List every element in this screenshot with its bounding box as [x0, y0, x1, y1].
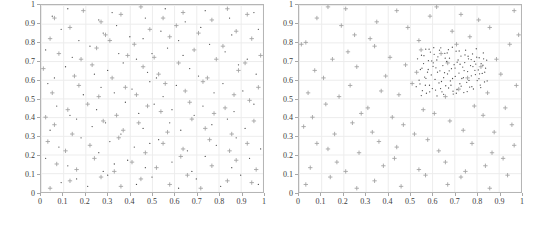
- y-tick-label: 1: [289, 0, 293, 9]
- y-tick-mark: [295, 42, 298, 43]
- x-tick-mark: [388, 193, 389, 196]
- y-tick-mark: [295, 23, 298, 24]
- x-tick-mark: [298, 193, 299, 196]
- y-tick-label: 0: [289, 189, 293, 198]
- x-tick-mark: [477, 193, 478, 196]
- y-tick-label: 0.5: [283, 94, 293, 103]
- y-tick-label: 0.6: [283, 75, 293, 84]
- markers-layer: [41, 5, 263, 192]
- x-tick-label: 0.2: [338, 197, 348, 206]
- x-tick-mark: [365, 193, 366, 196]
- y-tick-label: 0.7: [25, 56, 35, 65]
- x-tick-mark: [242, 193, 243, 196]
- y-tick-mark: [295, 174, 298, 175]
- scatter-plot-right: 00.10.20.30.40.50.60.70.80.91 00.10.20.3…: [298, 4, 522, 193]
- x-tick-label: 0.9: [495, 197, 505, 206]
- x-tick-label: 0.1: [57, 197, 67, 206]
- y-tick-label: 0.7: [283, 56, 293, 65]
- y-tick-mark: [295, 193, 298, 194]
- y-tick-label: 0.2: [283, 151, 293, 160]
- y-tick-label: 0.3: [25, 132, 35, 141]
- x-tick-mark: [432, 193, 433, 196]
- x-tick-mark: [522, 193, 523, 196]
- x-tick-label: 0.4: [383, 197, 393, 206]
- x-tick-mark: [107, 193, 108, 196]
- y-tick-label: 1: [31, 0, 35, 9]
- y-tick-label: 0.9: [283, 18, 293, 27]
- x-tick-mark: [320, 193, 321, 196]
- y-axis-labels: 00.10.20.30.40.50.60.70.80.91: [267, 4, 293, 193]
- x-tick-label: 0: [296, 197, 300, 206]
- y-tick-mark: [37, 155, 40, 156]
- x-axis-labels: 00.10.20.30.40.50.60.70.80.91: [298, 197, 522, 207]
- y-tick-mark: [295, 117, 298, 118]
- y-tick-label: 0.9: [25, 18, 35, 27]
- y-tick-label: 0.3: [283, 132, 293, 141]
- x-tick-label: 0.9: [237, 197, 247, 206]
- x-tick-label: 1: [520, 197, 524, 206]
- y-axis-labels: 00.10.20.30.40.50.60.70.80.91: [9, 4, 35, 193]
- y-tick-mark: [295, 136, 298, 137]
- y-tick-mark: [295, 4, 298, 5]
- x-tick-label: 0.6: [169, 197, 179, 206]
- x-tick-mark: [264, 193, 265, 196]
- y-tick-label: 0.1: [25, 170, 35, 179]
- scatter-plot-left: 00.10.20.30.40.50.60.70.80.91 00.10.20.3…: [40, 4, 264, 193]
- y-tick-mark: [37, 117, 40, 118]
- x-tick-label: 1: [262, 197, 266, 206]
- x-axis-ticks: [298, 193, 522, 196]
- y-tick-mark: [37, 193, 40, 194]
- y-tick-label: 0.8: [283, 37, 293, 46]
- x-tick-label: 0.3: [360, 197, 370, 206]
- y-tick-mark: [37, 136, 40, 137]
- x-tick-mark: [219, 193, 220, 196]
- y-tick-label: 0.5: [25, 94, 35, 103]
- x-axis-ticks: [40, 193, 264, 196]
- y-axis-ticks: [37, 4, 40, 193]
- x-tick-mark: [62, 193, 63, 196]
- x-tick-label: 0.2: [80, 197, 90, 206]
- x-tick-label: 0.8: [472, 197, 482, 206]
- plot-box: [40, 4, 264, 193]
- x-tick-label: 0.8: [214, 197, 224, 206]
- uniform-plus-markers: [41, 5, 263, 190]
- x-tick-mark: [500, 193, 501, 196]
- two-panel-scatter-figure: 00.10.20.30.40.50.60.70.80.91 00.10.20.3…: [0, 0, 551, 225]
- markers-layer: [299, 5, 521, 192]
- y-axis-ticks: [295, 4, 298, 193]
- uniform-plus-markers: [299, 5, 521, 190]
- x-tick-mark: [197, 193, 198, 196]
- y-tick-label: 0.8: [25, 37, 35, 46]
- y-tick-mark: [295, 61, 298, 62]
- y-tick-mark: [37, 4, 40, 5]
- plot-box: [298, 4, 522, 193]
- y-tick-mark: [295, 155, 298, 156]
- x-tick-label: 0.5: [405, 197, 415, 206]
- y-tick-label: 0.1: [283, 170, 293, 179]
- y-tick-mark: [295, 99, 298, 100]
- y-tick-label: 0.6: [25, 75, 35, 84]
- x-tick-label: 0.1: [315, 197, 325, 206]
- x-tick-label: 0.5: [147, 197, 157, 206]
- x-tick-mark: [174, 193, 175, 196]
- x-axis-labels: 00.10.20.30.40.50.60.70.80.91: [40, 197, 264, 207]
- x-tick-label: 0: [38, 197, 42, 206]
- y-tick-mark: [37, 61, 40, 62]
- clustered-dot-markers: [416, 47, 488, 97]
- x-tick-mark: [410, 193, 411, 196]
- x-tick-label: 0.6: [427, 197, 437, 206]
- y-tick-mark: [37, 42, 40, 43]
- y-tick-mark: [37, 174, 40, 175]
- x-tick-mark: [152, 193, 153, 196]
- y-tick-label: 0.4: [25, 113, 35, 122]
- x-tick-label: 0.7: [450, 197, 460, 206]
- y-tick-label: 0: [31, 189, 35, 198]
- y-tick-label: 0.2: [25, 151, 35, 160]
- y-tick-mark: [37, 99, 40, 100]
- x-tick-mark: [455, 193, 456, 196]
- y-tick-mark: [37, 80, 40, 81]
- uniform-dot-markers: [45, 8, 261, 189]
- x-tick-label: 0.7: [192, 197, 202, 206]
- y-tick-mark: [37, 23, 40, 24]
- y-tick-label: 0.4: [283, 113, 293, 122]
